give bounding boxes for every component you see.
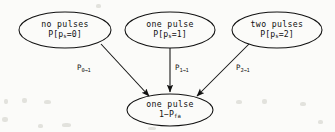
node-two-pulses[interactable] bbox=[232, 12, 322, 48]
transition-diagram: no pulses P[ps=0] one pulse P[ps=1] two … bbox=[0, 0, 335, 132]
node-no-pulses[interactable] bbox=[19, 12, 111, 48]
node-one-pulse-out[interactable] bbox=[127, 94, 213, 126]
edge-2-to-1 bbox=[197, 44, 249, 96]
node-one-pulse-in[interactable] bbox=[125, 12, 215, 48]
diagram-canvas bbox=[0, 0, 335, 132]
edge-0-to-1 bbox=[101, 44, 149, 96]
